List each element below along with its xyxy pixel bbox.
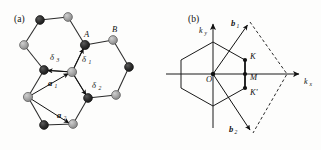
atom-b — [20, 41, 29, 50]
ky-axis-label: k y — [199, 26, 207, 36]
panel-a-label: (a) — [14, 14, 25, 25]
svg-text:b: b — [229, 124, 233, 134]
delta-2-label: δ 2 — [92, 80, 101, 91]
delta-3-label: δ 3 — [50, 52, 59, 63]
svg-text:1: 1 — [55, 83, 58, 89]
svg-text:δ: δ — [50, 52, 55, 62]
delta-1-label: δ 1 — [82, 54, 91, 65]
atom-b — [69, 120, 78, 129]
svg-text:2: 2 — [235, 129, 238, 135]
b-1-arrow — [213, 25, 248, 74]
kprime-point — [243, 86, 247, 90]
svg-text:3: 3 — [55, 57, 59, 63]
svg-text:δ: δ — [82, 54, 87, 64]
origin-label: O — [206, 74, 212, 84]
m-point-label: M — [249, 72, 258, 82]
a-1-label: a 1 — [48, 78, 58, 89]
m-point — [243, 72, 247, 76]
a-2-label: a 2 — [57, 110, 67, 121]
atom-b — [112, 91, 121, 100]
atom-b-center — [67, 67, 76, 76]
atom-a — [36, 16, 45, 25]
atom-b — [64, 13, 73, 22]
atom-a-labeled — [80, 40, 89, 49]
svg-text:1: 1 — [88, 59, 91, 65]
atom-a — [40, 66, 49, 75]
kx-axis-label: k x — [304, 77, 312, 87]
atom-a-label: A — [83, 29, 90, 39]
atom-a — [84, 94, 93, 103]
atom-b-origin — [23, 92, 32, 101]
graphene-lattice-figure: (a) — [0, 0, 321, 150]
panel-b-label: (b) — [188, 14, 199, 25]
svg-text:x: x — [308, 81, 312, 87]
svg-text:b: b — [231, 18, 235, 28]
svg-text:2: 2 — [98, 85, 101, 91]
k-point — [243, 58, 247, 62]
atom-a — [125, 63, 134, 72]
kprime-point-label: K' — [249, 87, 258, 97]
svg-text:δ: δ — [92, 80, 97, 90]
panel-a: (a) — [14, 13, 133, 130]
svg-text:y: y — [203, 30, 207, 36]
svg-text:1: 1 — [237, 23, 240, 29]
atom-b-labeled — [109, 36, 118, 45]
svg-text:2: 2 — [64, 115, 67, 121]
svg-text:k: k — [199, 26, 203, 35]
b-2-label: b 2 — [229, 124, 238, 135]
atom-a — [40, 121, 49, 130]
k-point-label: K — [249, 51, 257, 61]
b-1-label: b 1 — [231, 18, 240, 29]
panel-b: (b) O K M K' k x k y b — [166, 14, 312, 135]
atom-b-label: B — [112, 24, 117, 34]
svg-text:k: k — [304, 77, 308, 86]
